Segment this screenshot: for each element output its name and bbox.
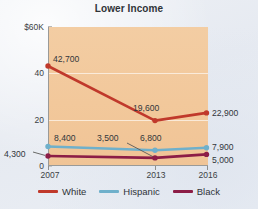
legend-label-hispanic: Hispanic (123, 186, 159, 197)
legend-swatch-black (173, 190, 193, 193)
legend-label-white: White (62, 186, 86, 197)
legend-item-black[interactable]: Black (173, 186, 220, 197)
legend-swatch-white (38, 190, 58, 193)
legend-item-white[interactable]: White (38, 186, 86, 197)
legend-label-black: Black (197, 186, 220, 197)
legend-swatch-hispanic (99, 190, 119, 193)
leader-line-4300-overlay (0, 0, 258, 209)
legend-item-hispanic[interactable]: Hispanic (99, 186, 159, 197)
leader-line-4300 (33, 152, 45, 155)
chart-legend: White Hispanic Black (0, 186, 258, 197)
